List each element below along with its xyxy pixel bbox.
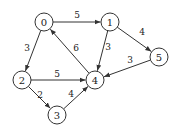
edge-weight-0-1: 5 (74, 10, 80, 20)
graph-diagram: 536343524 012345 (0, 0, 180, 130)
edge-weight-5-4: 3 (127, 55, 133, 65)
edge-4-to-0 (50, 29, 89, 73)
edge-weight-1-4: 3 (105, 42, 111, 52)
node-1: 1 (101, 13, 119, 31)
node-label: 2 (19, 75, 25, 86)
edge-weight-2-3: 2 (37, 90, 43, 100)
node-label: 3 (54, 110, 60, 121)
node-5: 5 (150, 48, 168, 66)
node-label: 1 (107, 17, 113, 28)
edge-weight-0-2: 3 (24, 43, 30, 53)
node-label: 4 (92, 75, 98, 86)
node-2: 2 (13, 71, 31, 89)
node-label: 5 (156, 52, 162, 63)
node-0: 0 (35, 13, 53, 31)
node-4: 4 (86, 71, 104, 89)
edges-layer (25, 22, 151, 109)
edge-1-to-5 (117, 27, 151, 51)
edge-weight-2-4: 5 (54, 69, 60, 79)
edge-weight-1-5: 4 (139, 27, 145, 37)
edge-weight-4-0: 6 (73, 43, 79, 53)
node-label: 0 (41, 17, 47, 28)
node-3: 3 (48, 106, 66, 124)
edge-weight-3-4: 4 (68, 89, 74, 99)
